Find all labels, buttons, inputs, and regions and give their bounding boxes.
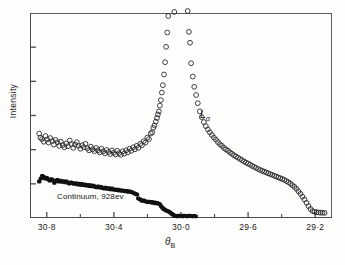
- lalpha-series-label: Lα: [200, 108, 210, 123]
- x-tick-label: 29·6: [228, 222, 268, 232]
- y-axis-label: Intensity: [8, 66, 18, 136]
- x-tick-label: 30·8: [27, 222, 67, 232]
- x-tick-label: 29·2: [295, 222, 335, 232]
- x-axis-label: θB: [165, 236, 175, 249]
- continuum-series-label: Continuum, 928ev: [57, 192, 124, 201]
- x-tick-label: 30·4: [94, 222, 134, 232]
- xray-spectrum-figure: Intensity θB Continuum, 928ev Lα 30·830·…: [0, 0, 345, 265]
- x-axis-label-subscript: B: [170, 242, 175, 249]
- lalpha-subscript: α: [206, 114, 210, 123]
- x-tick-label: 30·0: [161, 222, 201, 232]
